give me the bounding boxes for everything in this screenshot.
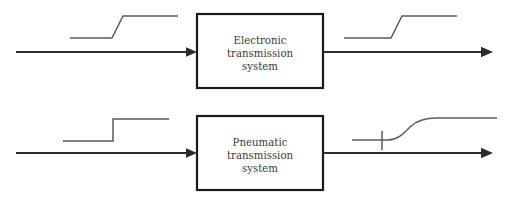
electronic-transmission-row: Electronic transmission system	[16, 14, 493, 88]
electronic-output-arrowhead	[481, 47, 493, 57]
pneumatic-input-signal-trace	[63, 119, 169, 141]
pneumatic-block-label-line1: Pneumatic	[233, 137, 288, 148]
pneumatic-block-label-line2: transmission	[227, 150, 294, 161]
electronic-block-label-line1: Electronic	[233, 35, 286, 46]
electronic-block-label-line3: system	[242, 61, 278, 72]
pneumatic-transmission-row: Pneumatic transmission system	[16, 116, 497, 190]
electronic-input-arrowhead	[186, 47, 197, 57]
pneumatic-output-signal-trace	[352, 118, 497, 140]
block-diagram-figure: Electronic transmission system Pneumatic…	[0, 0, 509, 204]
pneumatic-output-arrowhead	[481, 148, 493, 158]
electronic-output-signal-trace	[344, 16, 457, 38]
pneumatic-input-arrowhead	[186, 148, 197, 158]
pneumatic-block-label-line3: system	[242, 163, 278, 174]
electronic-block-label-line2: transmission	[227, 48, 294, 59]
diagram-canvas: Electronic transmission system Pneumatic…	[0, 0, 509, 204]
electronic-input-signal-trace	[70, 16, 178, 38]
